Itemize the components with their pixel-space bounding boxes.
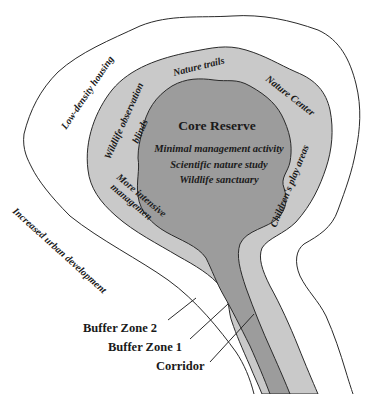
label-increased-urban-development: Increased urban development <box>10 205 110 296</box>
core-reserve-title: Core Reserve <box>178 118 255 133</box>
core-activity-3: Wildlife sanctuary <box>179 174 259 185</box>
legend-buffer-zone-2: Buffer Zone 2 <box>83 321 157 335</box>
core-activity-1: Minimal management activity <box>153 143 284 154</box>
biosphere-reserve-diagram: Core Reserve Minimal management activity… <box>0 0 374 394</box>
legend-buffer-zone-1: Buffer Zone 1 <box>108 340 182 354</box>
core-activity-2: Scientific nature study <box>170 159 268 170</box>
leader-buffer-zone-2 <box>168 298 196 320</box>
legend-corridor: Corridor <box>156 359 205 373</box>
